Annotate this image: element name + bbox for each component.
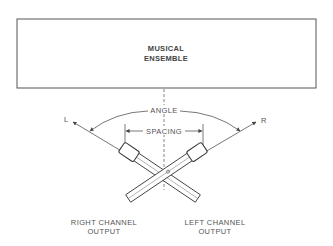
musical-ensemble-box: MUSICAL ENSEMBLE (17, 19, 316, 88)
svg-text:OUTPUT: OUTPUT (198, 227, 231, 236)
ensemble-label-line1: MUSICAL (148, 44, 184, 53)
right-axis-label: R (261, 116, 267, 125)
xy-stereo-mic-diagram: MUSICAL ENSEMBLE ANGLE SPACING L R (0, 0, 333, 246)
left-axis: L (64, 115, 123, 152)
right-axis: R (205, 116, 267, 152)
ensemble-label-line2: ENSEMBLE (144, 54, 188, 63)
left-axis-label: L (64, 115, 69, 124)
svg-text:OUTPUT: OUTPUT (87, 227, 120, 236)
left-channel-output-label: LEFT CHANNEL OUTPUT (185, 218, 246, 236)
spacing-label: SPACING (146, 127, 182, 136)
right-channel-output-label: RIGHT CHANNEL OUTPUT (71, 218, 137, 236)
svg-text:RIGHT CHANNEL: RIGHT CHANNEL (71, 218, 137, 227)
spacing-indicator: SPACING (125, 124, 203, 152)
angle-label: ANGLE (150, 106, 177, 115)
svg-text:LEFT CHANNEL: LEFT CHANNEL (185, 218, 246, 227)
